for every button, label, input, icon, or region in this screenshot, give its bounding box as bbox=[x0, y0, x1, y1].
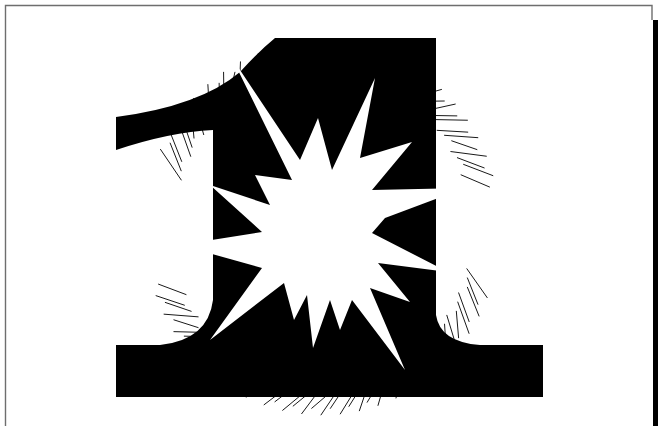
artwork-canvas bbox=[0, 0, 658, 426]
frame-side-bar bbox=[653, 20, 658, 426]
